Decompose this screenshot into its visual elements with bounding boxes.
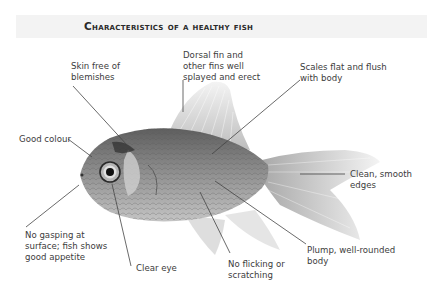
anal-fin bbox=[225, 210, 280, 250]
label-plump-body: Plump, well-rounded body bbox=[307, 245, 395, 267]
tail-fin bbox=[262, 150, 380, 240]
label-no-flicking: No flicking or scratching bbox=[228, 259, 285, 281]
label-scales: Scales flat and flush with body bbox=[300, 62, 387, 84]
label-clear-eye: Clear eye bbox=[136, 263, 177, 274]
pelvic-fin bbox=[185, 215, 225, 255]
label-good-colour: Good colour bbox=[19, 134, 71, 145]
label-no-gasping: No gasping at surface; fish shows good a… bbox=[25, 230, 107, 263]
label-dorsal-fin: Dorsal fin and other fins well splayed a… bbox=[183, 50, 260, 83]
fish-mouth bbox=[81, 174, 84, 177]
fish-eye bbox=[100, 162, 120, 182]
label-skin: Skin free of blemishes bbox=[71, 61, 120, 83]
label-clean-edges: Clean, smooth edges bbox=[350, 169, 412, 191]
